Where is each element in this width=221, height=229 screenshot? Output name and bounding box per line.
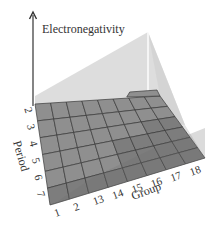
period-tick-label: 7: [35, 190, 48, 199]
period-tick-label: 5: [30, 156, 43, 165]
group-tick-label: 1: [52, 206, 61, 219]
period-tick-label: 3: [25, 122, 38, 131]
period-tick-label: 2: [22, 106, 35, 115]
period-tick-label: 4: [27, 139, 40, 148]
period-tick-label: 6: [32, 173, 45, 182]
group-tick-label: 2: [72, 200, 81, 213]
group-tick-label: 13: [91, 192, 106, 207]
vertical-axis-label: Electronegativity: [42, 22, 125, 36]
group-tick-label: 18: [188, 163, 203, 178]
group-tick-label: 14: [110, 186, 125, 201]
group-tick-label: 17: [169, 168, 184, 183]
electronegativity-diagram: Electronegativity 234567 Period 12131415…: [0, 0, 221, 229]
